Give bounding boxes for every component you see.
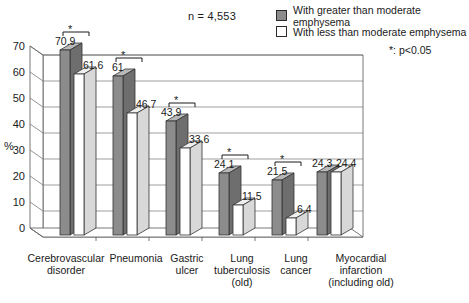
sig-star-lung-cancer: *: [280, 154, 284, 165]
legend-label-less: With less than moderate emphysema: [293, 26, 466, 38]
y-tick-50: 50: [3, 93, 25, 104]
bar-pneumonia-less: [127, 106, 149, 235]
bar-value-myocardial-infarction-greater: 24.3: [312, 158, 332, 169]
bar-group-cerebrovascular-disorder: [60, 43, 96, 235]
legend-item-less-than-moderate: With less than moderate emphysema: [276, 24, 469, 39]
bar-gastric-ulcer-less: [180, 141, 202, 235]
x-axis-ticks: [96, 237, 308, 241]
pvalue-note: *: p<0.05: [389, 45, 431, 56]
bar-value-lung-cancer-less: 6.4: [297, 204, 312, 215]
bar-cerebrovascular-disorder-less: [74, 67, 96, 235]
y-tick-70: 70: [3, 41, 25, 52]
sig-star-cerebrovascular-disorder: *: [68, 24, 72, 35]
bar-value-cerebrovascular-disorder-less: 61.6: [83, 60, 103, 71]
bar-lung-tuberculosis-old-less: [233, 198, 255, 235]
bar-value-pneumonia-greater: 61: [112, 62, 124, 73]
y-tick-30: 30: [3, 145, 25, 156]
chart-left-wall: [30, 46, 43, 237]
sig-star-pneumonia: *: [121, 50, 125, 61]
y-tick-20: 20: [3, 171, 25, 182]
y-tick-10: 10: [3, 197, 25, 208]
legend-item-greater-than-moderate: With greater than moderate emphysema: [276, 8, 469, 23]
bar-value-lung-tuberculosis-old-greater: 24.1: [214, 159, 234, 170]
sig-star-gastric-ulcer: *: [174, 95, 178, 106]
y-tick-40: 40: [3, 119, 25, 130]
chart-legend: With greater than moderate emphysema Wit…: [276, 8, 469, 40]
bar-value-gastric-ulcer-greater: 43.9: [161, 107, 181, 118]
bar-value-myocardial-infarction-less: 24.4: [336, 158, 356, 169]
bar-value-lung-tuberculosis-old-less: 11.5: [242, 191, 262, 202]
x-label-cerebrovascular-disorder: Cerebrovascular disorder: [20, 252, 112, 276]
bar-group-myocardial-infarction: [317, 165, 353, 235]
bar-value-pneumonia-less: 46.7: [136, 99, 156, 110]
sample-size-label: n = 4,553: [188, 11, 236, 22]
legend-swatch-icon-less: [276, 26, 287, 37]
bar-value-gastric-ulcer-less: 33.6: [189, 134, 209, 145]
y-tick-60: 60: [3, 67, 25, 78]
bar-myocardial-infarction-less: [331, 165, 353, 235]
x-label-myocardial-infarction: Myocardial infarction (including old): [316, 252, 406, 288]
legend-label-greater: With greater than moderate emphysema: [293, 4, 469, 28]
bar-value-cerebrovascular-disorder-greater: 70.9: [55, 36, 75, 47]
legend-swatch-icon-greater: [276, 10, 287, 21]
y-tick-0: 0: [3, 223, 25, 234]
bar-value-lung-cancer-greater: 21.5: [267, 166, 287, 177]
sig-star-lung-tuberculosis-old: *: [227, 147, 231, 158]
